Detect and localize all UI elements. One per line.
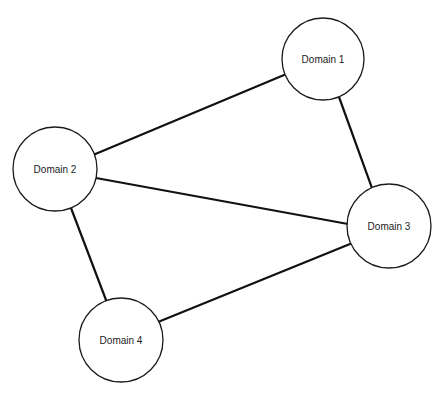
edge-domain2-domain4 [71,208,106,300]
node-domain-3: Domain 3 [347,184,431,268]
domain-network-diagram: Domain 1 Domain 2 Domain 3 Domain 4 [0,0,443,398]
edge-domain3-domain4 [158,244,350,322]
diagram-canvas: Domain 1 Domain 2 Domain 3 Domain 4 [0,0,443,398]
edges-layer [71,75,372,322]
node-label: Domain 3 [368,221,411,232]
edge-domain1-domain3 [339,97,372,188]
node-label: Domain 1 [302,54,345,65]
node-domain-1: Domain 1 [282,18,364,100]
edge-domain2-domain3 [96,178,348,224]
node-label: Domain 2 [34,164,77,175]
node-domain-4: Domain 4 [79,298,163,382]
edge-domain2-domain1 [93,75,284,155]
node-domain-2: Domain 2 [13,127,97,211]
node-label: Domain 4 [100,335,143,346]
